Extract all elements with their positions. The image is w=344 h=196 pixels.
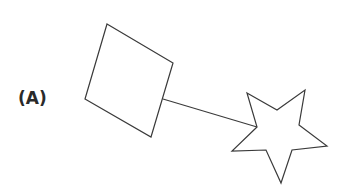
connector-line: [163, 99, 257, 127]
star-shape: [232, 90, 327, 183]
square-shape: [85, 24, 173, 137]
diagram-canvas: (A): [0, 0, 344, 196]
shapes-drawing: [0, 0, 344, 196]
